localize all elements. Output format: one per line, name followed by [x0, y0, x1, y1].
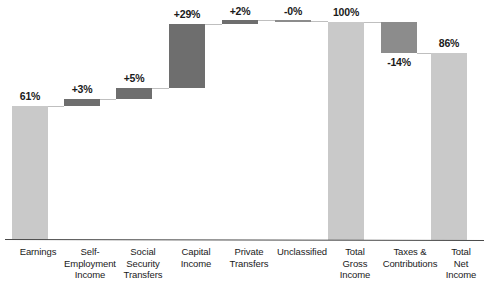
- connector-line: [205, 24, 222, 25]
- bar-social-security-transfers[interactable]: [116, 88, 152, 99]
- chart-plot-area: 61% +3% +5% +29% +2% -0% 100% -14% 86%: [0, 0, 489, 245]
- bar-unclassified[interactable]: [275, 20, 311, 22]
- connector-line: [364, 22, 381, 23]
- category-label-total-net-income: Total Net Income: [417, 246, 489, 281]
- value-label-unclassified: -0%: [275, 5, 311, 17]
- waterfall-chart: 61% +3% +5% +29% +2% -0% 100% -14% 86% E…: [0, 0, 489, 301]
- bar-taxes-and-contributions[interactable]: [381, 22, 417, 53]
- connector-line: [48, 106, 64, 107]
- value-label-private-transfers: +2%: [222, 5, 258, 17]
- value-label-earnings: 61%: [12, 90, 48, 102]
- value-label-social-security-transfers: +5%: [116, 72, 152, 84]
- connector-line: [152, 88, 169, 89]
- bar-self-employment-income[interactable]: [64, 99, 100, 106]
- category-axis: Earnings Self- Employment Income Social …: [0, 246, 489, 301]
- connector-line: [100, 99, 116, 100]
- value-label-taxes-and-contributions: -14%: [381, 56, 417, 68]
- bar-total-gross-income[interactable]: [328, 22, 364, 240]
- value-label-self-employment-income: +3%: [64, 83, 100, 95]
- connector-line: [311, 21, 328, 22]
- bar-private-transfers[interactable]: [222, 20, 258, 24]
- connector-line: [417, 53, 431, 54]
- value-label-total-gross-income: 100%: [328, 6, 364, 18]
- bar-total-net-income[interactable]: [431, 53, 467, 240]
- bar-capital-income[interactable]: [169, 24, 205, 88]
- connector-line: [258, 20, 275, 21]
- value-label-capital-income: +29%: [169, 8, 205, 20]
- bar-earnings[interactable]: [12, 106, 48, 240]
- value-label-total-net-income: 86%: [431, 37, 467, 49]
